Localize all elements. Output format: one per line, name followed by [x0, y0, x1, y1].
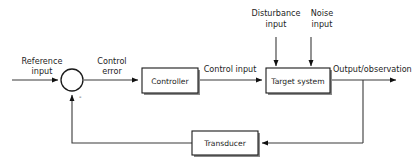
label-disturbance-input-line1: Disturbance: [252, 8, 301, 18]
label-output-observation: Output/observation: [333, 64, 412, 74]
label-transducer-block: Transducer: [203, 139, 247, 148]
label-reference-input-line2: input: [32, 66, 53, 76]
diagram-canvas: Reference input Control error Control in…: [0, 0, 419, 168]
summing-junction: [61, 69, 83, 91]
label-control-error-line2: error: [102, 66, 122, 76]
label-control-error-line1: Control: [97, 56, 126, 66]
label-summing-junction-minus: -: [79, 93, 82, 101]
label-target-system-block: Target system: [270, 77, 324, 86]
label-reference-input-line1: Reference: [22, 56, 63, 66]
control-system-block-diagram: Reference input Control error Control in…: [0, 0, 419, 168]
label-control-input: Control input: [204, 64, 257, 74]
label-controller-block: Controller: [151, 77, 189, 86]
label-noise-input-line1: Noise: [311, 8, 333, 18]
label-disturbance-input-line2: input: [266, 19, 287, 29]
wire-transducer-to-summing-junction: [72, 95, 192, 143]
label-noise-input-line2: input: [312, 19, 333, 29]
